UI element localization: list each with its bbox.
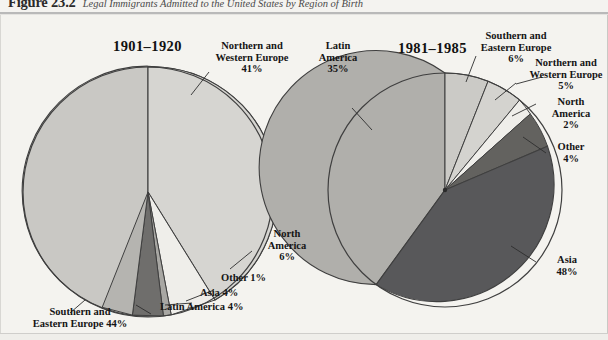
pie-right-center-dot bbox=[443, 188, 447, 192]
pie-right-label-asia: Asia 48% bbox=[543, 254, 591, 277]
pie-left-label-southern-eastern-europe: Southern and Eastern Europe 44% bbox=[10, 306, 150, 329]
pie-left-label-other: Other 1% bbox=[221, 272, 291, 284]
pie-right-label-other: Other 4% bbox=[546, 141, 596, 164]
pie-right-label-latin-america: Latin America 35% bbox=[307, 40, 369, 75]
pie-chart-1981-1985 bbox=[259, 51, 562, 307]
pie-left-year-label: 1901–1920 bbox=[113, 38, 182, 55]
pie-left-label-north-america: North America 6% bbox=[258, 228, 316, 263]
pie-left-label-asia: Asia 4% bbox=[200, 287, 260, 299]
pie-right-label-north-america: North America 2% bbox=[540, 96, 602, 131]
pie-right-label-northern-western-europe: Northern and Western Europe 5% bbox=[525, 57, 607, 92]
pie-left-label-northern-western-europe: Northern and Western Europe 41% bbox=[197, 40, 307, 75]
pie-left-label-latin-america: Latin America 4% bbox=[160, 301, 278, 313]
figure-container: Figure 23.2Legal Immigrants Admitted to … bbox=[0, 0, 608, 340]
pie-right-year-label: 1981–1985 bbox=[398, 40, 467, 57]
